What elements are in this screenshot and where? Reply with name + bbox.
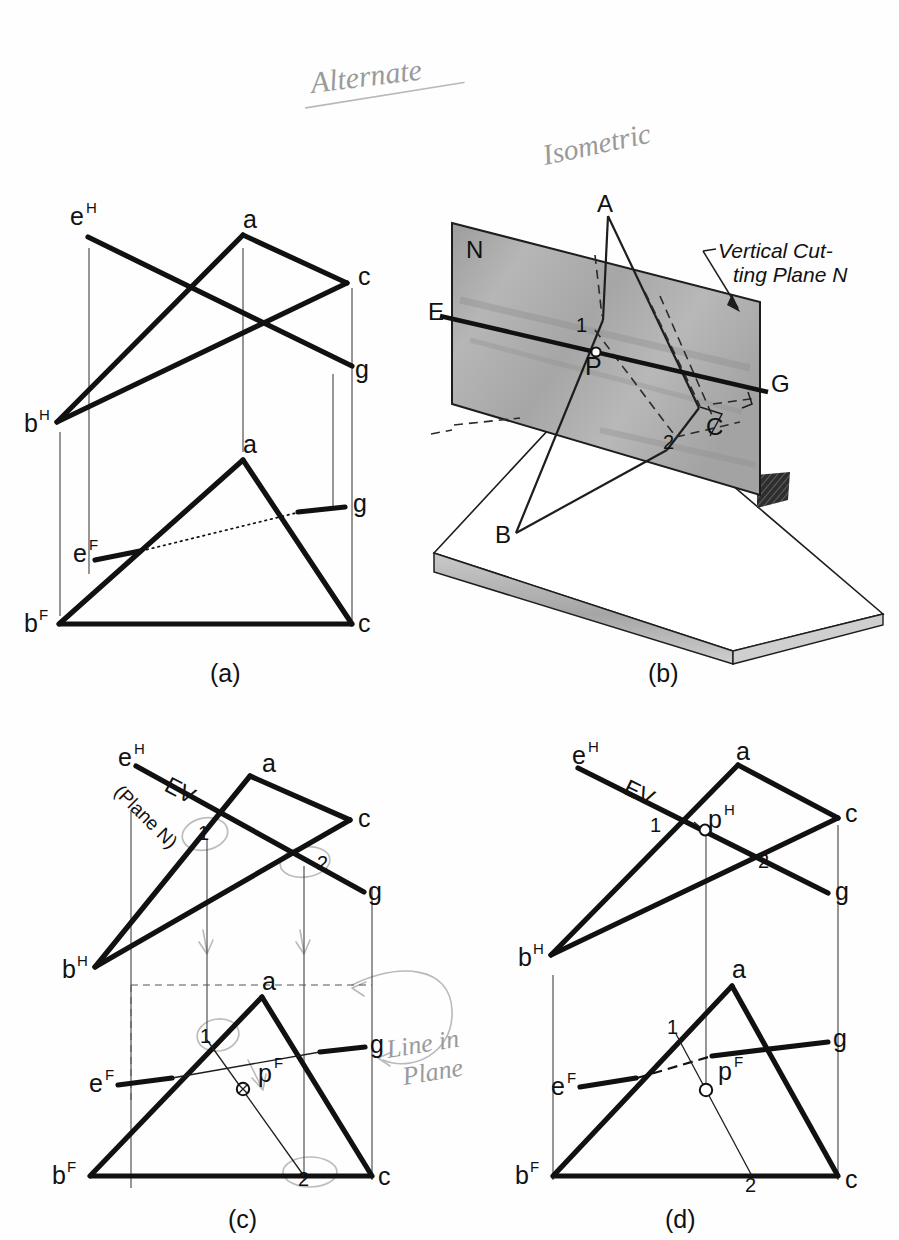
edge-ab-front-d xyxy=(553,986,732,1176)
caption-d: (d) xyxy=(665,1205,696,1233)
label-g-front-d: g xyxy=(833,1024,847,1052)
label-c-top-d: c xyxy=(845,799,858,827)
label-c-front-d: c xyxy=(845,1165,858,1193)
edge-ac-front-d xyxy=(732,986,838,1176)
label-p-front-d: p xyxy=(718,1057,732,1085)
edge-ac-top-d xyxy=(738,765,838,818)
label-b-front-sup-d: F xyxy=(530,1158,539,1175)
drawing-sheet: Alternate Isometric xyxy=(0,0,899,1240)
label-e-top-sup-d: H xyxy=(588,738,599,755)
fig-d-front-view xyxy=(553,986,838,1176)
label-e-top-d: e xyxy=(572,741,586,769)
label-2-top-d: 2 xyxy=(758,850,769,872)
fig-d-top-view xyxy=(551,765,838,955)
label-p-front-sup-d: F xyxy=(734,1053,743,1070)
label-1-top-d: 1 xyxy=(650,814,661,836)
label-e-front-sup-d: F xyxy=(567,1069,576,1086)
label-a-top-d: a xyxy=(736,737,750,765)
fig-d-labels: e H EV a c 1 p H 2 b H g a 1 p F g e F b… xyxy=(515,737,858,1196)
label-1-front-d: 1 xyxy=(667,1016,678,1038)
label-2-front-d: 2 xyxy=(745,1174,756,1196)
edge-bc-top-d xyxy=(551,818,838,955)
label-b-top-d: b xyxy=(518,943,532,971)
piercing-point-pf-d xyxy=(700,1084,712,1096)
label-e-front-d: e xyxy=(551,1072,565,1100)
label-p-top-d: p xyxy=(708,805,722,833)
label-b-front-d: b xyxy=(515,1161,529,1189)
label-p-top-sup-d: H xyxy=(724,801,735,818)
line-e-stub-front-d xyxy=(580,1078,636,1087)
label-a-front-d: a xyxy=(732,955,746,983)
label-g-top-d: g xyxy=(835,877,849,905)
label-b-top-sup-d: H xyxy=(533,940,544,957)
figure-d: e H EV a c 1 p H 2 b H g a 1 p F g e F b… xyxy=(0,0,899,1240)
